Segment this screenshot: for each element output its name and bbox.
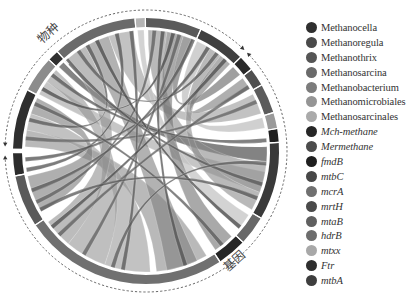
species-group-label: 物种 bbox=[35, 20, 62, 46]
legend-label: mcrA bbox=[321, 186, 343, 197]
legend-label: hdrB bbox=[321, 230, 342, 241]
legend-item: Methanocella bbox=[306, 20, 419, 35]
legend-label: Methanosarcinales bbox=[321, 111, 398, 122]
legend-label: mrtH bbox=[321, 201, 343, 212]
segment-methanobacterium bbox=[136, 18, 145, 27]
legend-label: Methanosarcina bbox=[321, 67, 387, 78]
chord-diagram: 物种 基因 bbox=[0, 0, 300, 305]
arrow-icon bbox=[247, 53, 251, 57]
legend-label: mtxx bbox=[321, 245, 340, 256]
legend-item: mcrA bbox=[306, 184, 419, 199]
legend-swatch-icon bbox=[306, 260, 317, 271]
legend-label: mtbA bbox=[321, 275, 343, 286]
arrow-icon bbox=[3, 155, 7, 159]
legend-item: Methanobacterium bbox=[306, 80, 419, 95]
legend-item: Methanosarcina bbox=[306, 65, 419, 80]
arrow-icon bbox=[3, 143, 7, 147]
legend-item: fmdB bbox=[306, 154, 419, 169]
legend-label: Methanocella bbox=[321, 22, 377, 33]
legend-item: Mch-methane bbox=[306, 124, 419, 139]
legend-swatch-icon bbox=[306, 52, 317, 63]
legend-swatch-icon bbox=[306, 141, 317, 152]
legend-item: hdrB bbox=[306, 228, 419, 243]
legend-swatch-icon bbox=[306, 186, 317, 197]
legend-item: Ftr bbox=[306, 258, 419, 273]
legend-item: Mermethane bbox=[306, 139, 419, 154]
legend-label: fmdB bbox=[321, 156, 343, 167]
legend-item: mtaB bbox=[306, 214, 419, 229]
legend-swatch-icon bbox=[306, 201, 317, 212]
legend-swatch-icon bbox=[306, 37, 317, 48]
legend-label: mtaB bbox=[321, 216, 343, 227]
legend-label: Methanothrix bbox=[321, 52, 377, 63]
legend-label: Methanoregula bbox=[321, 37, 383, 48]
legend-item: Methanosarcinales bbox=[306, 109, 419, 124]
legend-swatch-icon bbox=[306, 96, 317, 107]
legend-label: Mermethane bbox=[321, 141, 373, 152]
legend-swatch-icon bbox=[306, 82, 317, 93]
legend-swatch-icon bbox=[306, 245, 317, 256]
legend-swatch-icon bbox=[306, 275, 317, 286]
legend-swatch-icon bbox=[306, 22, 317, 33]
legend-label: Methanomicrobiales bbox=[321, 96, 406, 107]
legend-item: Methanomicrobiales bbox=[306, 94, 419, 109]
legend-item: mtxx bbox=[306, 243, 419, 258]
legend: MethanocellaMethanoregulaMethanothrixMet… bbox=[306, 20, 419, 288]
legend-item: mtbA bbox=[306, 273, 419, 288]
legend-label: Ftr bbox=[321, 260, 334, 271]
legend-swatch-icon bbox=[306, 67, 317, 78]
legend-item: mtbC bbox=[306, 169, 419, 184]
legend-swatch-icon bbox=[306, 216, 317, 227]
legend-swatch-icon bbox=[306, 126, 317, 137]
arrow-icon bbox=[240, 46, 244, 50]
legend-item: Methanothrix bbox=[306, 50, 419, 65]
legend-label: Methanobacterium bbox=[321, 82, 399, 93]
legend-label: Mch-methane bbox=[321, 126, 378, 137]
segment-mcra bbox=[268, 129, 278, 142]
legend-label: mtbC bbox=[321, 171, 343, 182]
legend-swatch-icon bbox=[306, 111, 317, 122]
legend-swatch-icon bbox=[306, 171, 317, 182]
legend-item: mrtH bbox=[306, 199, 419, 214]
legend-item: Methanoregula bbox=[306, 35, 419, 50]
legend-swatch-icon bbox=[306, 156, 317, 167]
legend-swatch-icon bbox=[306, 230, 317, 241]
